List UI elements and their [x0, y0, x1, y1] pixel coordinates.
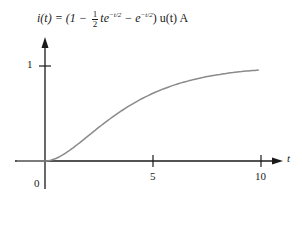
- x-tick-label-0: 0: [34, 177, 40, 189]
- y-axis-arrow-icon: [42, 37, 49, 48]
- y-tick-label-1: 1: [27, 58, 33, 70]
- x-tick-label-5: 5: [150, 170, 156, 182]
- x-axis-arrow-icon: [272, 158, 283, 165]
- i-of-t-curve: [17, 70, 259, 161]
- x-axis-label: t: [287, 152, 290, 164]
- x-tick-label-10: 10: [255, 170, 266, 182]
